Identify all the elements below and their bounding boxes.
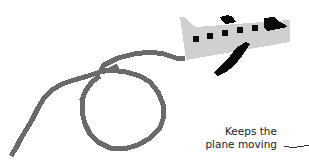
plane-window (193, 36, 199, 42)
annotation-line-1: Keeps the (205, 125, 277, 138)
annotation-line-2: plane moving (205, 138, 277, 151)
annotation-label: Keeps the plane moving (205, 125, 277, 151)
plane-window (252, 25, 258, 31)
airplane (180, 15, 290, 76)
plane-tail-fin (220, 15, 236, 24)
plane-window (207, 33, 213, 39)
annotation-pointer-line (284, 145, 309, 147)
plane-window (237, 27, 243, 33)
plane-window (222, 30, 228, 36)
smoke-trail (11, 52, 185, 156)
